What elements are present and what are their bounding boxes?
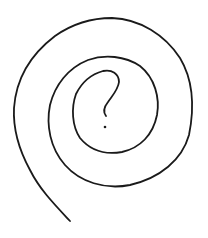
spiral-line	[14, 18, 192, 221]
spiral-question-icon	[0, 0, 208, 238]
question-dot	[104, 126, 107, 129]
spiral-figure: Hand-drawn spiral with a question mark a…	[0, 0, 208, 238]
